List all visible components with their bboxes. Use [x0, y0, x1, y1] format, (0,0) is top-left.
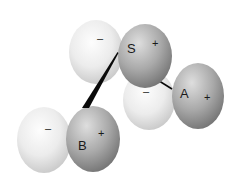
dipole-s: – S +: [69, 20, 172, 88]
dipole-s-positive-sign: +: [152, 37, 158, 49]
dipole-b-negative-sign: –: [45, 122, 52, 134]
dipole-b-negative-lobe: [17, 107, 71, 173]
dipole-b: – B +: [17, 106, 120, 173]
dipole-s-positive-lobe: [118, 24, 172, 88]
dipole-a-positive-sign: +: [204, 91, 210, 103]
dipole-s-negative-sign: –: [97, 32, 104, 44]
dipole-b-positive-sign: +: [98, 127, 104, 139]
dipole-b-positive-lobe: [66, 106, 120, 172]
dipole-s-label: S: [127, 41, 136, 56]
diagram-canvas: – A + – S + – B +: [0, 0, 235, 185]
dipole-s-negative-lobe: [69, 20, 123, 84]
dipole-b-label: B: [78, 138, 87, 153]
dipole-diagram: – A + – S + – B +: [0, 0, 235, 185]
dipole-a-label: A: [180, 86, 189, 101]
